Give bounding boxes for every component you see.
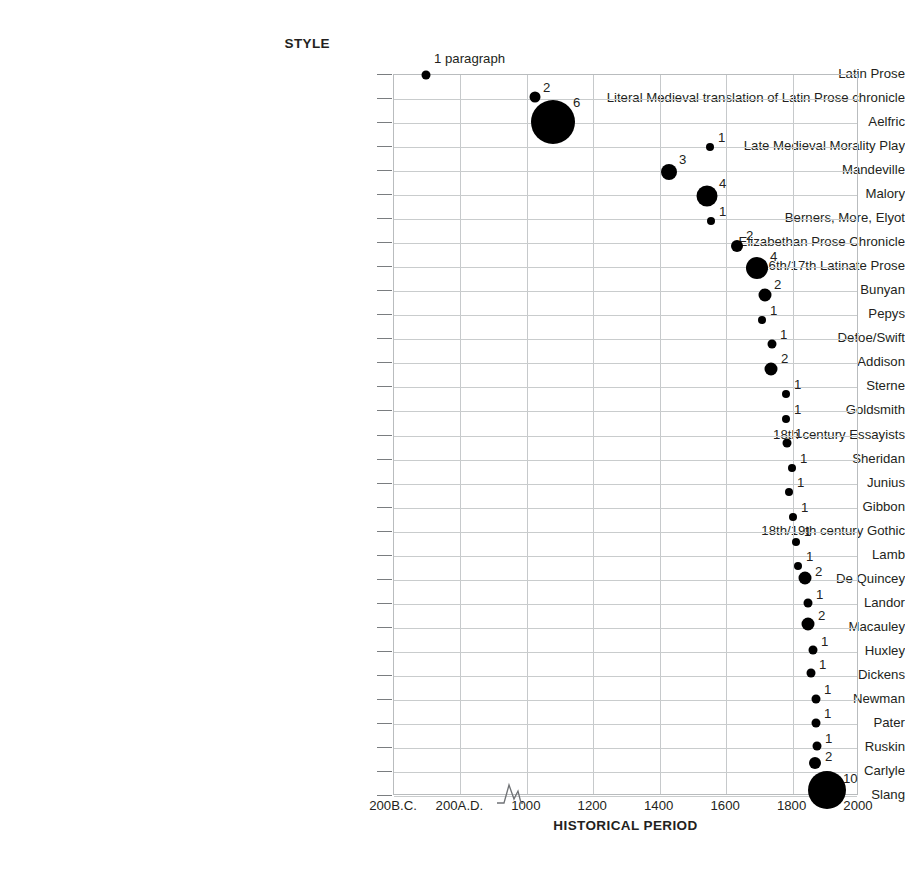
gridline-horizontal — [394, 796, 857, 797]
data-point[interactable] — [765, 363, 778, 376]
category-tick — [377, 338, 392, 339]
data-point[interactable] — [422, 71, 431, 80]
data-point[interactable] — [785, 488, 793, 496]
data-point-label: 3 — [679, 153, 686, 166]
data-point[interactable] — [789, 513, 797, 521]
category-tick — [377, 675, 392, 676]
data-point-label: 1 — [797, 476, 804, 489]
data-point[interactable] — [782, 415, 790, 423]
data-point-label: 1 paragraph — [434, 52, 505, 65]
data-point[interactable] — [807, 669, 816, 678]
category-tick — [377, 218, 392, 219]
category-tick — [377, 459, 392, 460]
gridline-vertical — [460, 75, 461, 794]
gridline-horizontal — [394, 267, 857, 268]
gridline-vertical — [593, 75, 594, 794]
data-point[interactable] — [531, 100, 575, 144]
gridline-horizontal — [394, 387, 857, 388]
gridline-vertical — [660, 75, 661, 794]
category-tick — [377, 795, 392, 796]
gridline-horizontal — [394, 291, 857, 292]
category-tick — [377, 483, 392, 484]
category-tick — [377, 603, 392, 604]
data-point-label: 4 — [770, 250, 777, 263]
data-point[interactable] — [783, 439, 792, 448]
data-point-label: 2 — [825, 750, 832, 763]
x-tick-label: 1600 — [710, 798, 739, 813]
data-point[interactable] — [697, 186, 718, 207]
y-axis-title-text: STYLE — [284, 36, 330, 51]
data-point[interactable] — [794, 562, 802, 570]
data-point[interactable] — [804, 599, 813, 608]
x-tick-label: 2000 — [843, 798, 872, 813]
data-point[interactable] — [706, 143, 714, 151]
data-point-label: 1 — [824, 683, 831, 696]
data-point-label: 10 — [843, 772, 858, 785]
data-point[interactable] — [788, 464, 796, 472]
bubble-chart: STYLE Latin ProseLiteral Medieval transl… — [0, 0, 905, 870]
data-point[interactable] — [808, 771, 846, 809]
category-tick — [377, 410, 392, 411]
gridline-horizontal — [394, 219, 857, 220]
category-tick — [377, 747, 392, 748]
gridline-horizontal — [394, 339, 857, 340]
x-tick-label: 1200 — [578, 798, 607, 813]
gridline-horizontal — [394, 532, 857, 533]
gridline-horizontal — [394, 628, 857, 629]
x-tick-label: 200B.C. — [369, 798, 417, 813]
data-point-label: 1 — [806, 550, 813, 563]
data-point[interactable] — [746, 257, 768, 279]
gridline-horizontal — [394, 604, 857, 605]
category-tick — [377, 386, 392, 387]
category-tick — [377, 651, 392, 652]
x-tick-label: 1800 — [777, 798, 806, 813]
data-point-label: 2 — [815, 565, 822, 578]
category-tick — [377, 314, 392, 315]
data-point[interactable] — [812, 695, 821, 704]
data-point[interactable] — [809, 757, 821, 769]
data-point[interactable] — [731, 240, 743, 252]
data-point[interactable] — [530, 92, 541, 103]
data-point-label: 1 — [821, 635, 828, 648]
data-point-label: 1 — [794, 378, 801, 391]
data-point[interactable] — [759, 289, 772, 302]
data-point[interactable] — [782, 390, 790, 398]
data-point[interactable] — [661, 164, 677, 180]
gridline-horizontal — [394, 315, 857, 316]
data-point[interactable] — [809, 646, 818, 655]
data-point-label: 1 — [800, 452, 807, 465]
data-point-label: 1 — [801, 501, 808, 514]
category-tick — [377, 627, 392, 628]
data-point[interactable] — [707, 217, 715, 225]
data-point-label: 1 — [770, 304, 777, 317]
gridline-horizontal — [394, 99, 857, 100]
gridline-vertical — [527, 75, 528, 794]
data-point-label: 4 — [719, 177, 726, 190]
data-point-label: 1 — [824, 707, 831, 720]
category-tick — [377, 74, 392, 75]
data-point-label: 1 — [719, 205, 726, 218]
data-point-label: 1 — [718, 131, 725, 144]
data-point[interactable] — [802, 618, 815, 631]
category-tick — [377, 146, 392, 147]
data-point-label: 1 — [825, 732, 832, 745]
data-point[interactable] — [799, 572, 812, 585]
data-point[interactable] — [792, 538, 800, 546]
category-tick — [377, 98, 392, 99]
gridline-horizontal — [394, 411, 857, 412]
data-point-label: 1 — [819, 658, 826, 671]
category-tick — [377, 531, 392, 532]
gridline-horizontal — [394, 724, 857, 725]
data-point[interactable] — [812, 719, 821, 728]
plot-area — [393, 74, 858, 795]
data-point[interactable] — [813, 742, 822, 751]
gridline-horizontal — [394, 171, 857, 172]
data-point[interactable] — [768, 340, 777, 349]
category-tick — [377, 723, 392, 724]
gridline-horizontal — [394, 436, 857, 437]
gridline-horizontal — [394, 580, 857, 581]
gridline-horizontal — [394, 123, 857, 124]
gridline-horizontal — [394, 484, 857, 485]
category-tick — [377, 242, 392, 243]
data-point[interactable] — [758, 316, 766, 324]
